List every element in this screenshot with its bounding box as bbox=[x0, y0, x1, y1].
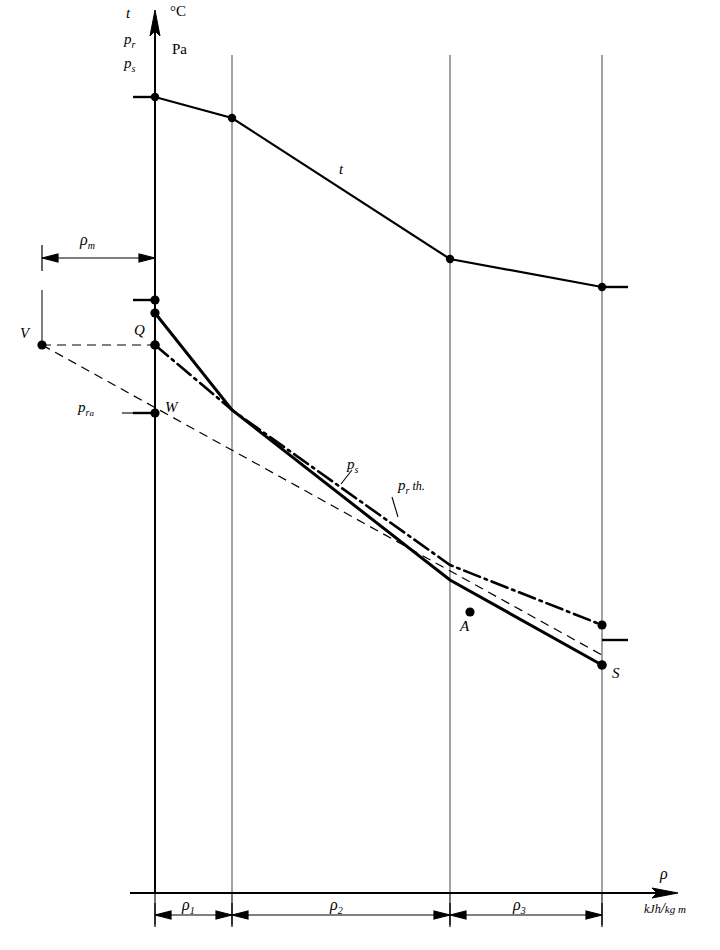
point-label-V: V bbox=[20, 326, 29, 341]
curve-ps bbox=[155, 313, 602, 665]
dimension-label-rho-1: ρ1 bbox=[182, 897, 195, 916]
dimension-label-rho-3: ρ3 bbox=[513, 897, 526, 916]
diagram-figure: t °C pr ps Pa ρm t ps pr th. V Q W A S bbox=[0, 0, 720, 950]
point-markers bbox=[37, 295, 606, 669]
point-label-W: W bbox=[165, 400, 178, 415]
axis-unit-rho: kJh/kg m bbox=[644, 900, 686, 917]
horizontal-axis bbox=[130, 888, 678, 898]
dimension-rho-m bbox=[42, 241, 155, 271]
vertical-axis bbox=[150, 10, 160, 893]
axis-label-pr: pr bbox=[124, 32, 135, 50]
point-V bbox=[37, 340, 46, 349]
curve-pr-a bbox=[42, 345, 602, 655]
axis-label-pascal: Pa bbox=[172, 42, 187, 57]
point-S bbox=[597, 660, 606, 669]
dimension-rho-3 bbox=[450, 903, 602, 927]
axis-label-ps: ps bbox=[124, 56, 135, 74]
axis-ticks bbox=[133, 300, 628, 640]
point-label-A: A bbox=[460, 619, 469, 634]
dimension-label-rho-2: ρ2 bbox=[330, 897, 343, 916]
point-label-Q: Q bbox=[134, 323, 145, 338]
curve-label-t: t bbox=[339, 162, 343, 177]
curve-t bbox=[155, 97, 602, 287]
curve-t-markers bbox=[151, 93, 606, 291]
axis-unit-numerator: kJh bbox=[644, 902, 661, 916]
axis-label-celsius: °C bbox=[170, 4, 186, 19]
point-A bbox=[465, 607, 474, 616]
curve-pr-th bbox=[155, 345, 602, 625]
dimension-label-rho-m: ρm bbox=[80, 232, 95, 251]
diagram-canvas bbox=[0, 0, 720, 950]
axis-unit-denominator: kg m bbox=[665, 903, 686, 915]
point-Q bbox=[150, 340, 159, 349]
dimension-extensions bbox=[155, 893, 602, 925]
curve-t-ticks bbox=[133, 97, 628, 287]
curve-label-pr-th: pr th. bbox=[398, 478, 425, 496]
axis-label-rho: ρ bbox=[660, 866, 668, 882]
point-label-pr-a: pra bbox=[78, 400, 94, 418]
point-label-S: S bbox=[612, 666, 620, 681]
curve-label-ps: ps bbox=[347, 457, 358, 475]
gridlines bbox=[232, 55, 602, 893]
curve-pr-th-markers bbox=[150, 340, 606, 629]
curve-ps-markers bbox=[150, 308, 606, 669]
leader-pr-th-label bbox=[392, 497, 398, 517]
axis-label-t: t bbox=[126, 6, 130, 21]
